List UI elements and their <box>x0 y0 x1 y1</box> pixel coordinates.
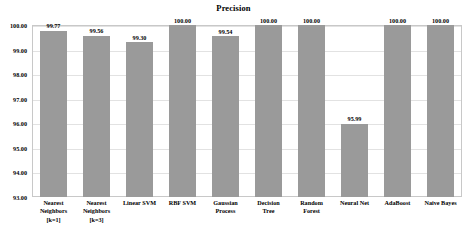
x-tick-label: AdaBoost <box>376 199 419 207</box>
bar-group[interactable]: 99.77 <box>32 25 75 197</box>
x-tick-label: Linear SVM <box>118 199 161 207</box>
x-axis: NearestNeighbors[k=1]NearestNeighbors[k=… <box>32 199 462 233</box>
bar-value-label: 100.00 <box>161 17 204 24</box>
y-tick-label: 95.00 <box>13 144 27 151</box>
bar-value-label: 100.00 <box>376 17 419 24</box>
x-tick-label: DecisionTree <box>247 199 290 216</box>
x-tick-label: Neural Net <box>333 199 376 207</box>
bar[interactable] <box>341 124 369 197</box>
bar[interactable] <box>40 31 68 197</box>
y-tick-label: 97.00 <box>13 95 27 102</box>
y-tick-label: 99.00 <box>13 46 27 53</box>
bar-value-label: 100.00 <box>247 17 290 24</box>
x-tick-label: RandomForest <box>290 199 333 216</box>
x-tick-label: GaussianProcess <box>204 199 247 216</box>
bar[interactable] <box>169 25 197 197</box>
bar-group[interactable]: 99.30 <box>118 25 161 197</box>
x-tick-label: Naive Bayes <box>419 199 462 207</box>
bar-group[interactable]: 100.00 <box>290 25 333 197</box>
bar-group[interactable]: 100.00 <box>161 25 204 197</box>
y-tick-label: 94.00 <box>13 169 27 176</box>
bar[interactable] <box>126 42 154 197</box>
bar-value-label: 99.30 <box>118 34 161 41</box>
bar[interactable] <box>298 25 326 197</box>
x-tick-label: NearestNeighbors[k=3] <box>75 199 118 224</box>
y-tick-label: 98.00 <box>13 71 27 78</box>
bar-group[interactable]: 100.00 <box>376 25 419 197</box>
y-tick-label: 93.00 <box>13 194 27 201</box>
chart-title: Precision <box>0 3 467 14</box>
bar-group[interactable]: 100.00 <box>247 25 290 197</box>
y-tick-label: 100.00 <box>10 22 27 29</box>
bar-group[interactable]: 100.00 <box>419 25 462 197</box>
y-tick-label: 96.00 <box>13 120 27 127</box>
bar-value-label: 99.54 <box>204 28 247 35</box>
bar[interactable] <box>427 25 455 197</box>
x-tick-label: NearestNeighbors[k=1] <box>32 199 75 224</box>
bar-value-label: 99.56 <box>75 27 118 34</box>
x-tick-label: RBF SVM <box>161 199 204 207</box>
y-axis: 100.0099.0098.0097.0096.0095.0094.0093.0… <box>0 25 30 197</box>
bar[interactable] <box>212 36 240 197</box>
bar-value-label: 95.99 <box>333 115 376 122</box>
bars-layer: 99.7799.5699.30100.0099.54100.00100.0095… <box>32 25 462 197</box>
bar-value-label: 100.00 <box>290 17 333 24</box>
bar[interactable] <box>255 25 283 197</box>
bar-group[interactable]: 99.54 <box>204 25 247 197</box>
bar-value-label: 99.77 <box>32 22 75 29</box>
bar-group[interactable]: 95.99 <box>333 25 376 197</box>
bar-group[interactable]: 99.56 <box>75 25 118 197</box>
bar[interactable] <box>384 25 412 197</box>
bar-value-label: 100.00 <box>419 17 462 24</box>
bar[interactable] <box>83 36 111 197</box>
precision-bar-chart: Precision 100.0099.0098.0097.0096.0095.0… <box>0 0 467 233</box>
